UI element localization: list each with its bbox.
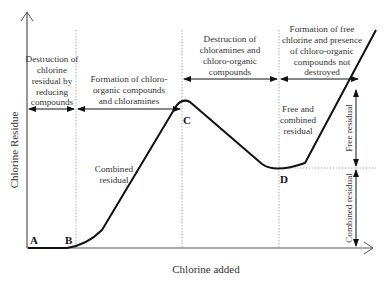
phase-3-line: chloramines and — [200, 45, 261, 55]
phase-4-line: Formation of free — [290, 24, 355, 34]
phase-4-line: chlorine and presence — [282, 35, 362, 45]
phase-3-line: compounds — [209, 67, 252, 77]
free-and-combined-annotation: Free and combined residual — [280, 104, 317, 136]
phase-4-line: destroyed — [304, 67, 340, 77]
phase-4-line: compounds not — [294, 57, 351, 67]
breakpoint-chlorination-diagram: Destruction of chlorine residual by redu… — [0, 0, 386, 285]
combined-residual-annotation: Combined residual — [95, 164, 134, 185]
phase-1-text: Destruction of chlorine residual by redu… — [26, 54, 80, 107]
phase-3-line: Destruction of — [204, 34, 258, 44]
annotation-line: combined — [280, 115, 317, 125]
x-axis-label: Chlorine added — [172, 263, 240, 275]
point-d-label: D — [280, 173, 288, 185]
phase-1-line: reducing — [36, 87, 69, 97]
annotation-line: residual — [99, 175, 129, 185]
phase-2-line: organic compounds — [93, 85, 165, 95]
phase-4-line: of chloro-organic — [290, 46, 354, 56]
phase-2-text: Formation of chloro- organic compounds a… — [90, 74, 167, 106]
phase-2-line: Formation of chloro- — [90, 74, 167, 84]
phase-3-text: Destruction of chloramines and chloro-or… — [200, 34, 261, 77]
phase-2-line: and chloramines — [99, 96, 160, 106]
phase-1-line: residual by — [32, 76, 73, 86]
combined-residual-label: Combined residual — [344, 173, 354, 243]
point-c-label: C — [183, 114, 191, 126]
annotation-line: Combined — [95, 164, 134, 174]
phase-3-line: chloro-organic — [203, 56, 257, 66]
y-axis-label: Chlorine Residue — [8, 112, 20, 189]
annotation-line: residual — [283, 126, 313, 136]
annotation-line: Free and — [282, 104, 314, 114]
point-b-label: B — [65, 234, 73, 246]
point-a-label: A — [30, 234, 38, 246]
phase-1-line: compounds — [31, 97, 74, 107]
phase-1-line: Destruction of — [26, 54, 80, 64]
phase-1-line: chlorine — [37, 65, 67, 75]
free-residual-label: Free residual — [344, 104, 354, 152]
phase-4-text: Formation of free chlorine and presence … — [282, 24, 362, 77]
